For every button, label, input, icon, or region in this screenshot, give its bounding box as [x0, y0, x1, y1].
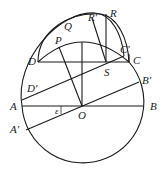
label-d-prime: D′ [27, 83, 37, 94]
label-c-prime: C′ [120, 44, 130, 55]
label-p: P [55, 35, 62, 46]
label-q: Q [64, 21, 72, 32]
label-epsilon: ε [55, 106, 59, 117]
diagram-canvas [0, 0, 164, 180]
line-r-prime-s [92, 18, 106, 62]
label-c: C [133, 55, 140, 66]
label-a: A [10, 101, 17, 112]
label-o: O [78, 110, 86, 121]
upper-arc-d-to-c [38, 14, 129, 62]
inner-arc-d-to-c [38, 42, 129, 62]
line-po [59, 47, 82, 106]
label-r: R [110, 8, 117, 19]
label-b: B [150, 101, 157, 112]
label-a-prime: A′ [10, 124, 19, 135]
label-s: S [104, 67, 110, 78]
label-b-prime: B′ [142, 75, 151, 86]
celestial-sphere-diagram: Q P R′ R C′ C D S B′ D′ A B O ε A′ [0, 0, 164, 180]
label-r-prime: R′ [88, 12, 97, 23]
label-d: D [28, 56, 36, 67]
